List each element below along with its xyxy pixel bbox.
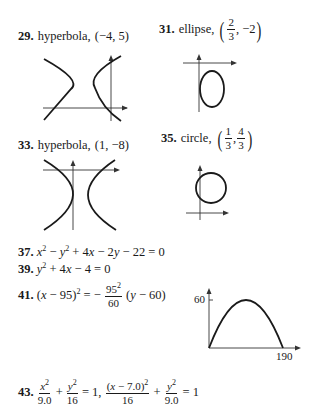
y-tick-label: 60 (194, 293, 205, 305)
fraction: y216 (67, 381, 78, 406)
problem-number: 43. (18, 385, 34, 399)
problem-43: 43. x29.0 + y216 = 1, (x − 7.0)216 + y29… (18, 381, 199, 406)
fraction: y29.0 (165, 381, 179, 406)
fraction: (x − 7.0)216 (106, 381, 150, 406)
graph-41-parabola (0, 0, 309, 406)
x-tick-label: 190 (276, 350, 293, 362)
fraction: x29.0 (38, 381, 52, 406)
